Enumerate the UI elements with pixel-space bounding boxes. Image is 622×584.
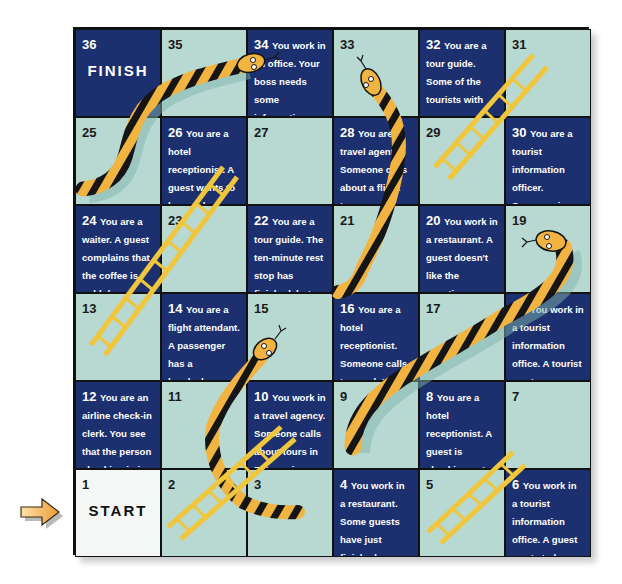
square-5[interactable]: 5 [419, 469, 505, 557]
square-28[interactable]: 28 You are a travel agent. Someone calls… [333, 117, 419, 205]
square-21[interactable]: 21 [333, 205, 419, 293]
square-number: 6 [512, 477, 523, 492]
square-18[interactable]: 18 You work in a tourist information off… [505, 293, 591, 381]
square-11[interactable]: 11 [161, 381, 247, 469]
square-4[interactable]: 4 You work in a restaurant. Some guests … [333, 469, 419, 557]
square-15[interactable]: 15 [247, 293, 333, 381]
square-number: 30 [512, 125, 530, 140]
square-number: 21 [340, 213, 354, 228]
square-6[interactable]: 6 You work in a tourist information offi… [505, 469, 591, 557]
square-9[interactable]: 9 [333, 381, 419, 469]
square-number: 23 [168, 213, 182, 228]
square-number: 22 [254, 213, 272, 228]
square-31[interactable]: 31 [505, 29, 591, 117]
square-number: 27 [254, 125, 268, 140]
square-number: 18 [512, 301, 530, 316]
square-17[interactable]: 17 [419, 293, 505, 381]
square-number: 20 [426, 213, 444, 228]
square-number: 32 [426, 37, 444, 52]
square-number: 28 [340, 125, 358, 140]
square-number: 16 [340, 301, 358, 316]
square-number: 15 [254, 301, 268, 316]
square-27[interactable]: 27 [247, 117, 333, 205]
square-1[interactable]: 1 START [75, 469, 161, 557]
square-number: 11 [168, 389, 182, 404]
square-23[interactable]: 23 [161, 205, 247, 293]
square-number: 17 [426, 301, 440, 316]
square-34[interactable]: 34 You work in an office. Your boss need… [247, 29, 333, 117]
square-number: 13 [82, 301, 96, 316]
square-16[interactable]: 16 You are a hotel receptionist. Someone… [333, 293, 419, 381]
square-number: 1 [82, 477, 89, 492]
arrow-right-icon [20, 497, 64, 531]
square-19[interactable]: 19 [505, 205, 591, 293]
square-number: 19 [512, 213, 526, 228]
square-number: 10 [254, 389, 272, 404]
square-10[interactable]: 10 You work in a travel agency. Someone … [247, 381, 333, 469]
square-number: 25 [82, 125, 96, 140]
square-number: 36 [82, 37, 96, 52]
square-number: 35 [168, 37, 182, 52]
square-number: 9 [340, 389, 347, 404]
square-32[interactable]: 32 You are a tour guide. Some of the tou… [419, 29, 505, 117]
square-number: 7 [512, 389, 519, 404]
square-2[interactable]: 2 [161, 469, 247, 557]
square-number: 34 [254, 37, 272, 52]
square-30[interactable]: 30 You are a tourist information officer… [505, 117, 591, 205]
square-number: 24 [82, 213, 100, 228]
square-number: 14 [168, 301, 186, 316]
square-number: 26 [168, 125, 186, 140]
square-number: 8 [426, 389, 437, 404]
square-number: 5 [426, 477, 433, 492]
square-number: 4 [340, 477, 351, 492]
square-26[interactable]: 26 You are a hotel receptionist. A guest… [161, 117, 247, 205]
start-label: START [76, 502, 160, 519]
square-3[interactable]: 3 [247, 469, 333, 557]
square-20[interactable]: 20 You work in a restaurant. A guest doe… [419, 205, 505, 293]
square-13[interactable]: 13 [75, 293, 161, 381]
square-14[interactable]: 14 You are a flight attendant. A passeng… [161, 293, 247, 381]
square-number: 31 [512, 37, 526, 52]
square-36[interactable]: 36 FINISH [75, 29, 161, 117]
square-25[interactable]: 25 [75, 117, 161, 205]
square-33[interactable]: 33 [333, 29, 419, 117]
square-number: 2 [168, 477, 175, 492]
square-number: 3 [254, 477, 261, 492]
square-24[interactable]: 24 You are a waiter. A guest complains t… [75, 205, 161, 293]
square-number: 33 [340, 37, 354, 52]
square-29[interactable]: 29 [419, 117, 505, 205]
square-35[interactable]: 35 [161, 29, 247, 117]
square-22[interactable]: 22 You are a tour guide. The ten-minute … [247, 205, 333, 293]
finish-label: FINISH [76, 62, 160, 79]
game-board: 36 FINISH 35 34 You work in an office. Y… [73, 27, 589, 555]
square-number: 12 [82, 389, 100, 404]
square-7[interactable]: 7 [505, 381, 591, 469]
square-12[interactable]: 12 You are an airline check-in clerk. Yo… [75, 381, 161, 469]
square-8[interactable]: 8 You are a hotel receptionist. A guest … [419, 381, 505, 469]
square-number: 29 [426, 125, 440, 140]
